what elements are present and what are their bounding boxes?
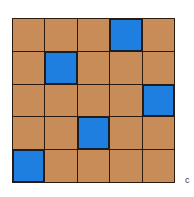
grid-cell (78, 52, 109, 84)
grid-cell (45, 117, 76, 149)
grid-cell (45, 85, 76, 117)
grid-cell (78, 85, 109, 117)
grid-cell (13, 117, 44, 149)
grid-cell (78, 19, 109, 51)
grid-cell (45, 150, 76, 182)
grid-cell-blue (78, 117, 109, 149)
grid-cell (143, 150, 174, 182)
grid-cell (110, 117, 141, 149)
grid-cell-blue (110, 19, 141, 51)
grid-cell (45, 19, 76, 51)
grid-cell (143, 117, 174, 149)
grid-cell (110, 85, 141, 117)
grid-cell (110, 52, 141, 84)
grid-cell (13, 52, 44, 84)
grid-cell (143, 52, 174, 84)
panel-label: c (185, 175, 190, 185)
grid-cell (13, 19, 44, 51)
grid-cell (13, 85, 44, 117)
grid-cell (110, 150, 141, 182)
grid-cell (78, 150, 109, 182)
grid-cell-blue (13, 150, 44, 182)
grid-cell-blue (143, 85, 174, 117)
grid-board (12, 18, 175, 183)
grid-cell (143, 19, 174, 51)
grid-cell-blue (45, 52, 76, 84)
